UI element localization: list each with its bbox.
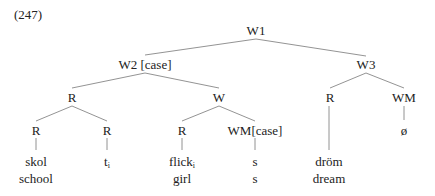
node-w2-case: W2 [case] bbox=[118, 58, 171, 72]
leaf-school: school bbox=[19, 172, 53, 186]
node-r: R bbox=[103, 124, 112, 138]
trace-index: i bbox=[108, 161, 110, 170]
leaf-skol: skol bbox=[25, 155, 47, 169]
leaf-dream: dream bbox=[313, 172, 345, 186]
leaf-trace: ti bbox=[104, 155, 110, 173]
node-r: R bbox=[326, 91, 335, 105]
node-w: W bbox=[213, 91, 225, 105]
flick-word: flick bbox=[169, 154, 193, 169]
leaf-null: ø bbox=[401, 124, 408, 138]
node-wm: WM bbox=[392, 91, 416, 105]
node-wm-case: WM[case] bbox=[228, 124, 283, 138]
leaf-drom: dröm bbox=[315, 155, 342, 169]
node-r: R bbox=[68, 91, 77, 105]
node-w1: W1 bbox=[247, 24, 266, 38]
node-r: R bbox=[32, 124, 41, 138]
node-r: R bbox=[178, 124, 187, 138]
leaf-s: s bbox=[252, 155, 257, 169]
leaf-s-gloss: s bbox=[252, 172, 257, 186]
node-w3: W3 bbox=[357, 58, 376, 72]
leaf-girl: girl bbox=[173, 172, 191, 186]
flick-index: i bbox=[193, 161, 195, 170]
